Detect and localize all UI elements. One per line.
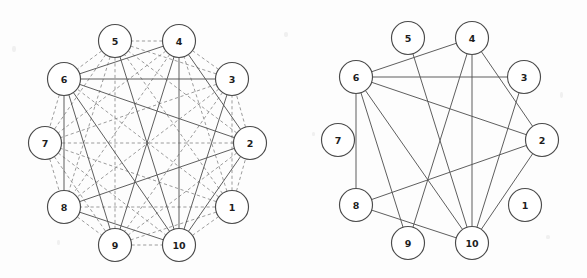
graph-node-2[interactable]: 2 — [526, 124, 559, 157]
node-label-2: 2 — [247, 138, 254, 149]
solid-edge-group — [356, 43, 533, 238]
graph-node-3[interactable]: 3 — [216, 63, 249, 96]
dashed-edge-8-9 — [77, 217, 102, 235]
solid-edge-6-2 — [372, 82, 527, 134]
graph-node-2[interactable]: 2 — [234, 127, 267, 160]
graph-node-1[interactable]: 1 — [216, 191, 249, 224]
graph-figure: 12345678910 12345678910 — [0, 0, 587, 278]
graph-node-5[interactable]: 5 — [99, 25, 132, 58]
node-label-8: 8 — [353, 200, 360, 211]
subgraph-panel: 12345678910 — [294, 0, 587, 278]
node-label-6: 6 — [353, 72, 360, 83]
dashed-edge-6-7 — [50, 95, 60, 127]
dashed-edge-3-7 — [61, 84, 217, 137]
scan-artifact — [57, 240, 60, 245]
node-label-10: 10 — [172, 240, 186, 251]
dashed-edge-3-9 — [125, 92, 223, 231]
node-label-3: 3 — [521, 72, 528, 83]
graph-node-5[interactable]: 5 — [392, 22, 425, 55]
node-label-5: 5 — [405, 33, 412, 44]
dashed-edge-1-2 — [236, 159, 245, 191]
graph-node-8[interactable]: 8 — [340, 189, 373, 222]
node-label-1: 1 — [522, 200, 529, 211]
graph-node-1[interactable]: 1 — [509, 189, 542, 222]
scan-artifact — [12, 46, 16, 52]
graph-node-7[interactable]: 7 — [29, 127, 62, 160]
graph-node-7[interactable]: 7 — [322, 124, 355, 157]
dashed-edge-5-6 — [77, 51, 102, 69]
graph-node-9[interactable]: 9 — [392, 227, 425, 260]
graph-node-4[interactable]: 4 — [163, 25, 196, 58]
graph-node-9[interactable]: 9 — [99, 229, 132, 262]
node-label-3: 3 — [229, 74, 236, 85]
solid-edge-6-10 — [73, 93, 169, 232]
node-label-10: 10 — [465, 238, 479, 249]
node-label-2: 2 — [539, 135, 546, 146]
node-label-6: 6 — [61, 74, 68, 85]
complete-graph-svg: 12345678910 — [0, 0, 294, 278]
node-label-7: 7 — [335, 135, 342, 146]
complete-graph-panel: 12345678910 — [0, 0, 294, 278]
graph-node-10[interactable]: 10 — [163, 229, 196, 262]
node-label-7: 7 — [42, 138, 49, 149]
node-label-9: 9 — [405, 238, 412, 249]
scan-artifact — [284, 32, 288, 37]
graph-node-6[interactable]: 6 — [340, 61, 373, 94]
node-label-4: 4 — [176, 36, 183, 47]
subgraph-svg: 12345678910 — [294, 0, 587, 278]
graph-node-4[interactable]: 4 — [456, 22, 489, 55]
node-label-9: 9 — [112, 240, 119, 251]
node-label-1: 1 — [229, 202, 236, 213]
scan-artifact — [546, 235, 550, 239]
graph-node-8[interactable]: 8 — [48, 191, 81, 224]
dashed-edge-7-8 — [50, 159, 60, 191]
dashed-edge-4-8 — [73, 55, 169, 194]
dashed-edge-1-7 — [61, 148, 217, 201]
node-label-8: 8 — [61, 202, 68, 213]
graph-node-10[interactable]: 10 — [456, 227, 489, 260]
scan-artifact — [560, 92, 563, 98]
graph-node-3[interactable]: 3 — [508, 61, 541, 94]
solid-edge-2-8 — [372, 145, 527, 199]
graph-node-6[interactable]: 6 — [48, 63, 81, 96]
dashed-edge-1-5 — [125, 54, 223, 193]
node-label-5: 5 — [112, 36, 119, 47]
node-label-4: 4 — [469, 33, 476, 44]
scan-artifact — [312, 132, 315, 136]
dashed-edge-2-3 — [236, 95, 245, 127]
solid-edge-6-10 — [365, 91, 462, 230]
